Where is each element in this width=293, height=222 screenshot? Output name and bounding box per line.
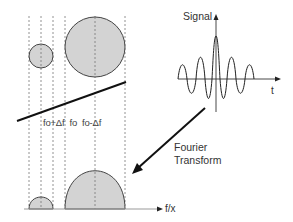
fourier-diagram bbox=[0, 0, 293, 222]
time-axis-label: t bbox=[271, 86, 274, 96]
freq-center-label: fo bbox=[69, 117, 77, 128]
frequency-axis-arrowhead bbox=[157, 207, 163, 212]
dispersion-line bbox=[17, 82, 126, 121]
fourier-label-line2: Transform bbox=[174, 154, 221, 167]
fourier-label-line1: Fourier bbox=[174, 141, 221, 154]
freq-minus-label: fo-Δf bbox=[82, 117, 101, 128]
frequency-labels: fo+Δffofo-Δf bbox=[43, 118, 106, 128]
frequency-axis-label: f/x bbox=[165, 204, 176, 214]
signal-label: Signal bbox=[183, 11, 212, 22]
signal-axis-arrowhead bbox=[214, 14, 219, 20]
freq-plus-label: fo+Δf bbox=[43, 117, 64, 128]
time-axis-arrowhead bbox=[275, 77, 281, 82]
fourier-transform-label: Fourier Transform bbox=[174, 141, 221, 167]
